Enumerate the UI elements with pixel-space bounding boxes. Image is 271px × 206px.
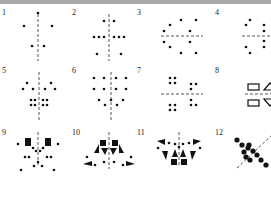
- dot: [163, 41, 166, 44]
- dot: [169, 24, 172, 27]
- dot: [263, 24, 266, 27]
- panel-4: 4: [215, 9, 271, 69]
- dot: [174, 143, 177, 146]
- dot: [93, 88, 96, 91]
- dot: [234, 137, 239, 142]
- dot: [30, 99, 33, 102]
- dot: [96, 53, 99, 56]
- square-shape: [171, 159, 177, 165]
- dot: [245, 24, 248, 27]
- symmetry-pattern: [215, 67, 271, 127]
- dot: [103, 161, 106, 164]
- dot: [190, 104, 193, 107]
- dot: [113, 161, 116, 164]
- dot: [54, 88, 57, 91]
- dot: [254, 152, 259, 157]
- triangle-shape: [264, 99, 271, 106]
- dot: [182, 143, 185, 146]
- panel-3: 3: [137, 9, 203, 69]
- panel-12: 12: [215, 129, 271, 189]
- dot: [32, 147, 35, 150]
- dot: [180, 19, 183, 22]
- dot: [110, 99, 113, 102]
- dot: [93, 36, 96, 39]
- dot: [94, 164, 97, 167]
- triangle-shape: [162, 151, 168, 160]
- dot: [46, 156, 49, 159]
- dot: [188, 142, 191, 145]
- dot: [93, 77, 96, 80]
- dot: [42, 104, 45, 107]
- dot: [103, 77, 106, 80]
- dot: [123, 36, 126, 39]
- dot: [33, 165, 36, 168]
- dot: [125, 77, 128, 80]
- triangle-shape: [126, 161, 135, 166]
- triangle-shape: [180, 149, 186, 157]
- dot: [190, 88, 193, 91]
- triangle-shape: [264, 83, 271, 90]
- square-shape: [25, 138, 31, 146]
- dot: [174, 109, 177, 112]
- dot: [245, 46, 248, 49]
- triangle-shape: [193, 139, 201, 145]
- panel-9: 9: [2, 129, 68, 189]
- dot: [39, 150, 42, 153]
- dot: [17, 143, 20, 146]
- dot: [178, 146, 181, 149]
- dot: [46, 104, 49, 107]
- dot: [116, 104, 119, 107]
- dot: [249, 52, 252, 55]
- dot: [98, 99, 101, 102]
- triangle-shape: [83, 161, 92, 166]
- dot: [174, 104, 177, 107]
- dot: [50, 156, 53, 159]
- dot: [189, 30, 192, 33]
- dot: [46, 99, 49, 102]
- dot: [130, 156, 133, 159]
- dot: [118, 36, 121, 39]
- triangle-shape: [190, 151, 196, 160]
- dot: [86, 156, 89, 159]
- dot: [169, 109, 172, 112]
- dot: [31, 45, 34, 48]
- panel-10: 10: [72, 129, 138, 189]
- symmetry-pattern: [137, 67, 203, 127]
- dot: [34, 99, 37, 102]
- dot: [37, 161, 40, 164]
- symmetry-pattern: [2, 9, 68, 69]
- top-gray-strip: [0, 0, 271, 4]
- dot: [98, 36, 101, 39]
- dot: [32, 88, 35, 91]
- dot: [57, 143, 60, 146]
- dot: [37, 12, 40, 15]
- dot: [199, 147, 202, 150]
- symmetry-pattern: [215, 129, 271, 189]
- panel-2: 2: [72, 9, 138, 69]
- dot: [51, 25, 54, 28]
- triangle-shape: [101, 148, 108, 155]
- dot: [169, 104, 172, 107]
- triangle-shape: [110, 148, 117, 155]
- dot: [35, 150, 38, 153]
- dot: [20, 169, 23, 172]
- square-shape: [112, 140, 118, 146]
- dot: [245, 145, 250, 150]
- panel-8: 8: [215, 67, 271, 127]
- dot: [42, 147, 45, 150]
- dot: [43, 45, 46, 48]
- panel-7: 7: [137, 67, 203, 127]
- dot: [169, 46, 172, 49]
- dot: [125, 88, 128, 91]
- square-shape: [248, 84, 259, 90]
- dot: [103, 20, 106, 23]
- dot: [249, 19, 252, 22]
- dot: [263, 40, 266, 43]
- dot: [115, 88, 118, 91]
- dot: [23, 25, 26, 28]
- dot: [195, 19, 198, 22]
- dot: [189, 41, 192, 44]
- dot: [103, 88, 106, 91]
- symmetry-pattern: [72, 9, 138, 69]
- dot: [163, 30, 166, 33]
